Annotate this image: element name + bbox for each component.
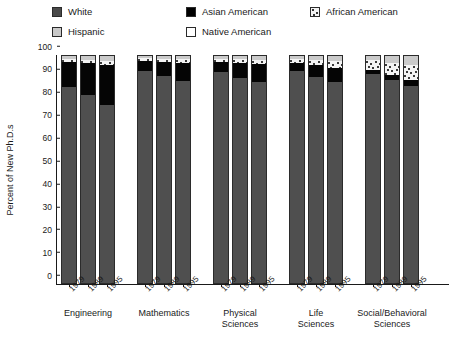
y-axis-tick-label: 40 <box>43 180 57 189</box>
segment-hispanic <box>308 56 324 61</box>
group-label: Engineering <box>64 308 112 319</box>
y-axis-tick-label: 60 <box>43 134 57 143</box>
y-axis-tick-label: 90 <box>43 65 57 74</box>
y-axis-tickmark <box>57 275 60 276</box>
x-axis-group-labels: EngineeringMathematicsPhysical SciencesL… <box>57 308 449 338</box>
segment-hispanic <box>365 56 381 61</box>
y-axis-tick-label: 50 <box>43 157 57 166</box>
segment-native-american <box>289 55 305 56</box>
segment-asian-american <box>156 62 172 76</box>
segment-native-american <box>175 55 191 56</box>
segment-native-american <box>80 55 96 56</box>
x-axis-year-label: 1979 <box>372 287 378 293</box>
y-axis-tick-label: 10 <box>43 248 57 257</box>
segment-asian-american <box>251 64 267 82</box>
segment-hispanic <box>156 56 172 59</box>
stacked-bar[interactable] <box>251 55 267 284</box>
segment-african-american <box>327 61 343 67</box>
segment-african-american <box>232 59 248 63</box>
legend-label-native-american: Native American <box>202 27 271 37</box>
segment-native-american <box>308 55 324 56</box>
segment-african-american <box>175 59 191 63</box>
segment-hispanic <box>289 56 305 59</box>
y-axis-tick-label: 70 <box>43 111 57 120</box>
segment-native-american <box>365 55 381 56</box>
segment-white <box>213 72 229 284</box>
legend-item-white: White <box>52 7 92 17</box>
y-axis-tickmark <box>57 115 60 116</box>
plot-area: Percent of New Ph.D.s 010203040506070809… <box>57 55 449 284</box>
segment-african-american <box>289 59 305 63</box>
x-axis-year-label: 1995 <box>106 287 112 293</box>
x-axis-year-label: 1979 <box>220 287 226 293</box>
stacked-bar[interactable] <box>327 55 343 284</box>
segment-african-american <box>99 61 115 66</box>
stacked-bar[interactable] <box>384 55 400 284</box>
x-axis-year-label: 1989 <box>163 287 169 293</box>
x-axis-year-label: 1995 <box>410 287 416 293</box>
segment-hispanic <box>251 56 267 60</box>
x-axis-year-label: 1979 <box>68 287 74 293</box>
y-axis-tick-label: 20 <box>43 225 57 234</box>
segment-white <box>365 74 381 284</box>
stacked-bar[interactable] <box>175 55 191 284</box>
y-axis-tickmark <box>57 252 60 253</box>
y-axis-tick-label: 30 <box>43 203 57 212</box>
segment-asian-american <box>308 65 324 76</box>
segment-hispanic <box>80 56 96 60</box>
y-axis-tickmark <box>57 92 60 93</box>
stacked-bar[interactable] <box>308 55 324 284</box>
x-axis-year-label: 1989 <box>239 287 245 293</box>
segment-hispanic <box>327 56 343 61</box>
legend-item-asian-american: Asian American <box>186 7 268 17</box>
group-label: Social/Behavioral Sciences <box>357 308 427 330</box>
stacked-bar[interactable] <box>213 55 229 284</box>
y-axis-tick-label: 80 <box>43 88 57 97</box>
segment-white <box>251 82 267 284</box>
segment-asian-american <box>80 63 96 95</box>
legend-swatch-african-american-icon <box>310 7 320 17</box>
chart-legend: White Hispanic Asian American Native Ame… <box>52 4 452 46</box>
segment-white <box>232 78 248 284</box>
stacked-bar[interactable] <box>365 55 381 284</box>
y-axis-tickmark <box>57 46 60 47</box>
legend-label-asian-american: Asian American <box>202 7 268 17</box>
segment-hispanic <box>175 56 191 60</box>
segment-african-american <box>251 60 267 64</box>
segment-hispanic <box>384 56 400 63</box>
legend-label-african-american: African American <box>326 7 398 17</box>
stacked-bar[interactable] <box>99 55 115 284</box>
segment-asian-american <box>137 61 153 71</box>
stacked-bar[interactable] <box>80 55 96 284</box>
stacked-bar[interactable] <box>403 55 419 284</box>
segment-native-american <box>213 55 229 56</box>
segment-white <box>156 76 172 284</box>
segment-native-american <box>137 55 153 56</box>
y-axis-tickmark <box>57 229 60 230</box>
y-axis-tickmark <box>57 206 60 207</box>
stacked-bar-chart: White Hispanic Asian American Native Ame… <box>0 0 456 339</box>
stacked-bar[interactable] <box>61 55 77 284</box>
segment-white <box>80 95 96 284</box>
segment-white <box>175 81 191 284</box>
legend-label-hispanic: Hispanic <box>68 27 104 37</box>
y-axis-tick-label: 0 <box>47 271 57 280</box>
group-label: Physical Sciences <box>222 308 259 330</box>
x-axis-year-label: 1989 <box>391 287 397 293</box>
segment-african-american <box>61 59 77 62</box>
segment-white <box>137 71 153 284</box>
segment-native-american <box>327 55 343 56</box>
stacked-bar[interactable] <box>137 55 153 284</box>
segment-native-american <box>251 55 267 56</box>
segment-white <box>308 77 324 284</box>
x-axis-year-label: 1995 <box>182 287 188 293</box>
x-axis-year-label: 1989 <box>315 287 321 293</box>
stacked-bar[interactable] <box>289 55 305 284</box>
legend-item-african-american: African American <box>310 7 398 17</box>
group-label: Life Sciences <box>298 308 335 330</box>
stacked-bar[interactable] <box>156 55 172 284</box>
segment-african-american <box>365 60 381 70</box>
stacked-bar[interactable] <box>232 55 248 284</box>
legend-swatch-native-american-icon <box>186 27 196 37</box>
segment-african-american <box>308 60 324 65</box>
